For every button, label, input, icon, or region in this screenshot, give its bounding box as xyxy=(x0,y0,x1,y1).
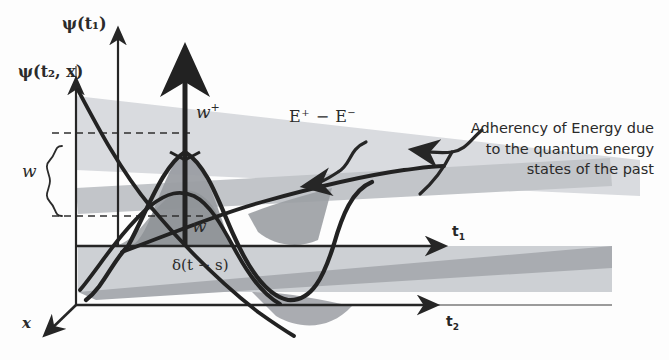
label-axis-x: x xyxy=(22,316,31,331)
energy-e1: E xyxy=(289,107,301,126)
label-w-plus: w+ xyxy=(196,102,220,121)
label-delta: δ(t − s) xyxy=(172,258,229,273)
t2-sub: 2 xyxy=(453,322,459,332)
label-psi-t1: ψ(t₁) xyxy=(62,16,107,32)
figure-canvas: ψ(t₁) ψ(t₂, x) w+ w w E+ − E− δ(t − s) t… xyxy=(0,0,669,360)
label-w-center: w xyxy=(192,218,207,235)
label-w-plus-sup: + xyxy=(211,101,220,114)
label-w-brace: w xyxy=(22,163,37,180)
label-psi-t2x: ψ(t₂, x) xyxy=(18,64,83,80)
w-brace xyxy=(47,146,62,216)
label-energy-difference: E+ − E− xyxy=(289,108,356,125)
energy-sup-minus: − xyxy=(347,107,356,118)
t1-sub: 1 xyxy=(459,232,465,242)
energy-sup-plus: + xyxy=(301,107,310,118)
label-axis-t1: t1 xyxy=(452,224,465,242)
diagram-svg xyxy=(0,0,669,360)
label-axis-t2: t2 xyxy=(446,314,459,332)
energy-minus-e: − E xyxy=(310,107,347,126)
label-w-plus-text: w xyxy=(196,102,211,122)
axis-x xyxy=(46,305,76,334)
annotation-text: Adherency of Energy due to the quantum e… xyxy=(404,118,654,180)
